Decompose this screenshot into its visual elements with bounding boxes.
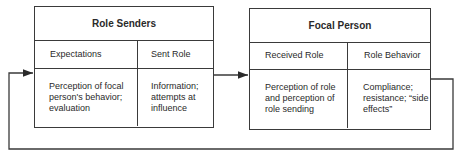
column-divider [347,42,348,128]
role-senders-title: Role Senders [35,7,213,41]
role-senders-box: Role Senders Expectations Sent Role Perc… [34,6,214,128]
focal-person-box: Focal Person Received Role Role Behavior… [249,8,431,130]
expectations-header: Expectations [35,40,137,69]
received-role-body: Perception of role and perception of rol… [265,82,345,115]
role-behavior-header: Role Behavior [347,42,430,70]
sent-role-body: Information; attempts at influence [151,81,211,114]
focal-person-title: Focal Person [250,9,430,43]
sent-role-header: Sent Role [137,40,213,69]
expectations-body: Perception of focal person's behavior; e… [49,81,135,114]
column-divider [137,40,138,126]
received-role-header: Received Role [250,42,347,70]
role-behavior-body: Compliance; resistance; “side effects” [363,82,429,115]
